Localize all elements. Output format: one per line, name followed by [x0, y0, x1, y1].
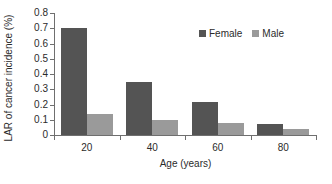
- y-tick-mark: [50, 89, 54, 90]
- y-tick-label: 0.2: [34, 100, 48, 110]
- legend-entry-female: Female: [199, 28, 242, 39]
- bar-male-40: [152, 120, 178, 135]
- x-tick-label: 80: [278, 142, 289, 153]
- x-tick-mark: [120, 136, 121, 140]
- x-tick-mark: [251, 136, 252, 140]
- bar-male-80: [283, 129, 309, 135]
- y-tick-label: 0.4: [34, 69, 48, 79]
- legend-swatch-icon: [252, 30, 259, 37]
- chart-legend: FemaleMale: [199, 28, 284, 39]
- x-axis-ticks: 20406080: [54, 136, 317, 160]
- y-axis-title: LAR of cancer incidence (%): [2, 4, 16, 152]
- y-tick-label: 0.5: [34, 54, 48, 64]
- x-tick-mark: [185, 136, 186, 140]
- y-tick-mark: [50, 120, 54, 121]
- bar-female-60: [192, 102, 218, 135]
- y-tick-label: 0.8: [34, 8, 48, 18]
- bar-female-80: [257, 124, 283, 135]
- bar-female-20: [61, 28, 87, 135]
- y-tick-label: 0.3: [34, 84, 48, 94]
- bar-chart-figure: LAR of cancer incidence (%) 0.80.70.60.5…: [0, 0, 332, 184]
- y-tick-mark: [50, 105, 54, 106]
- y-tick-mark: [50, 28, 54, 29]
- x-tick-label: 60: [212, 142, 223, 153]
- bar-male-60: [218, 123, 244, 135]
- x-tick-mark: [54, 136, 55, 140]
- y-tick-label: 0.7: [34, 23, 48, 33]
- x-tick-mark: [316, 136, 317, 140]
- x-axis-title: Age (years): [54, 158, 317, 170]
- legend-label: Male: [262, 28, 284, 39]
- legend-entry-male: Male: [252, 28, 284, 39]
- y-tick-mark: [50, 74, 54, 75]
- y-tick-label: 0: [42, 130, 48, 140]
- bar-male-20: [87, 114, 113, 135]
- y-tick-label: 0.1: [34, 115, 48, 125]
- bar-female-40: [126, 82, 152, 135]
- y-tick-label: 0.6: [34, 39, 48, 49]
- y-tick-mark: [50, 44, 54, 45]
- y-tick-mark: [50, 13, 54, 14]
- legend-label: Female: [209, 28, 242, 39]
- y-tick-mark: [50, 59, 54, 60]
- legend-swatch-icon: [199, 30, 206, 37]
- x-tick-label: 40: [147, 142, 158, 153]
- x-tick-label: 20: [81, 142, 92, 153]
